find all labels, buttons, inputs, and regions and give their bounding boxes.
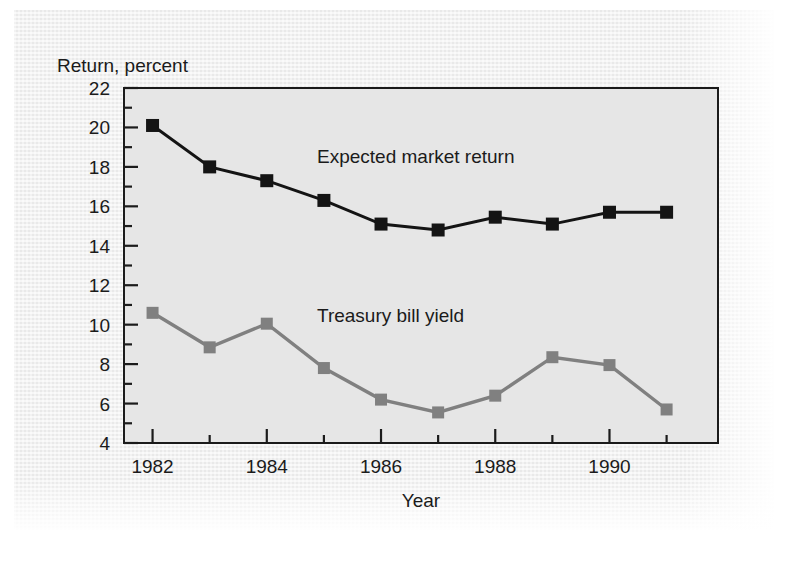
data-point-1982 (147, 307, 159, 319)
x-tick-label-1986: 1986 (360, 456, 402, 477)
y-tick-label-12: 12 (89, 275, 110, 296)
y-tick-label-6: 6 (99, 394, 110, 415)
data-point-1991 (660, 206, 673, 219)
data-point-1991 (661, 403, 673, 415)
x-axis-title: Year (402, 490, 441, 511)
data-point-1983 (204, 341, 216, 353)
x-tick-label-1982: 1982 (131, 456, 173, 477)
data-point-1986 (375, 394, 387, 406)
data-point-1985 (318, 362, 330, 374)
data-point-1990 (603, 359, 615, 371)
y-axis-tick-labels: 22201816141210864 (89, 78, 111, 454)
y-axis-title: Return, percent (57, 55, 189, 76)
x-tick-label-1990: 1990 (588, 456, 630, 477)
data-point-1989 (546, 218, 559, 231)
data-point-1984 (261, 318, 273, 330)
y-tick-label-18: 18 (89, 157, 110, 178)
y-tick-label-16: 16 (89, 196, 110, 217)
data-point-1989 (546, 351, 558, 363)
figure-page: Return, percent Year 22201816141210864 1… (0, 0, 810, 567)
x-tick-label-1984: 1984 (246, 456, 289, 477)
x-tick-label-1988: 1988 (474, 456, 516, 477)
y-tick-label-8: 8 (99, 354, 110, 375)
y-tick-label-10: 10 (89, 315, 110, 336)
line-chart: Return, percent Year 22201816141210864 1… (0, 0, 810, 567)
plot-area-background (124, 88, 718, 443)
data-point-1988 (489, 211, 502, 224)
series-label-expected-market-return: Expected market return (317, 146, 514, 167)
data-point-1986 (375, 218, 388, 231)
data-point-1987 (432, 406, 444, 418)
y-tick-label-20: 20 (89, 117, 110, 138)
y-tick-label-14: 14 (89, 236, 111, 257)
data-point-1988 (489, 390, 501, 402)
data-point-1990 (603, 206, 616, 219)
series-label-treasury-bill-yield: Treasury bill yield (317, 305, 464, 326)
data-point-1982 (146, 119, 159, 132)
y-tick-label-4: 4 (99, 433, 110, 454)
data-point-1984 (260, 174, 273, 187)
data-point-1985 (317, 194, 330, 207)
data-point-1987 (432, 224, 445, 237)
data-point-1983 (203, 160, 216, 173)
x-axis-tick-labels: 19821984198619881990 (131, 456, 630, 477)
y-tick-label-22: 22 (89, 78, 110, 99)
